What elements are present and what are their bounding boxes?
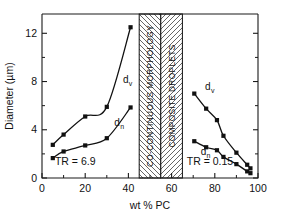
data-point-d_n-right xyxy=(234,162,238,166)
series-label-d_v-left: dv xyxy=(123,74,133,87)
y-tick-label: 12 xyxy=(25,27,37,39)
data-point-d_n-left xyxy=(62,149,66,153)
annotation-tr-right: TR = 0.15 xyxy=(187,155,234,167)
band-label-co-continuous-morphology: CO-CONTINUOUS MORPHOLOGY xyxy=(145,25,155,167)
y-axis-title: Diameter (µm) xyxy=(3,62,15,129)
x-tick-label: 0 xyxy=(39,182,45,194)
x-tick-label: 60 xyxy=(166,182,178,194)
data-point-d_n-left xyxy=(128,105,132,109)
series-label-subscript: n xyxy=(120,123,124,130)
series-label-subscript: v xyxy=(211,87,215,94)
x-tick-label: 100 xyxy=(249,182,267,194)
series-label-main: d xyxy=(205,81,211,92)
data-point-d_n-left xyxy=(105,136,109,140)
data-point-d_n-left xyxy=(83,143,87,147)
data-point-d_v-right xyxy=(221,134,225,138)
data-point-d_v-right xyxy=(204,107,208,111)
data-point-d_v-left xyxy=(128,25,132,29)
band-label-composite-droplets: COMPOSITE DROPLETS xyxy=(167,44,177,147)
x-tick-label: 40 xyxy=(123,182,135,194)
data-point-d_v-right xyxy=(234,151,238,155)
data-point-d_v-left xyxy=(51,143,55,147)
data-point-d_v-right xyxy=(215,118,219,122)
series-label-main: d xyxy=(123,74,129,85)
diameter-vs-wtpc-chart: CO-CONTINUOUS MORPHOLOGYCOMPOSITE DROPLE… xyxy=(0,0,299,215)
data-point-d_v-left xyxy=(105,105,109,109)
x-tick-label: 80 xyxy=(209,182,221,194)
x-tick-label: 20 xyxy=(79,182,91,194)
y-tick-label: 8 xyxy=(31,75,37,87)
series-label-d_v-right: dv xyxy=(205,81,215,94)
data-point-d_n-right xyxy=(215,148,219,152)
data-point-d_v-right xyxy=(192,91,196,95)
data-point-d_v-right xyxy=(245,163,249,167)
y-tick-label: 0 xyxy=(31,172,37,184)
x-axis-title: wt % PC xyxy=(129,199,171,211)
data-point-d_n-right xyxy=(248,171,252,175)
y-tick-label: 4 xyxy=(31,123,37,135)
series-label-subscript: v xyxy=(129,80,133,87)
annotation-tr-left: TR = 6.9 xyxy=(55,155,96,167)
series-label-main: d xyxy=(114,117,120,128)
data-point-d_n-right xyxy=(192,139,196,143)
phase-band-group: CO-CONTINUOUS MORPHOLOGYCOMPOSITE DROPLE… xyxy=(139,14,182,178)
data-point-d_v-left xyxy=(83,114,87,118)
data-point-d_v-left xyxy=(62,132,66,136)
figure-container: CO-CONTINUOUS MORPHOLOGYCOMPOSITE DROPLE… xyxy=(0,0,299,215)
